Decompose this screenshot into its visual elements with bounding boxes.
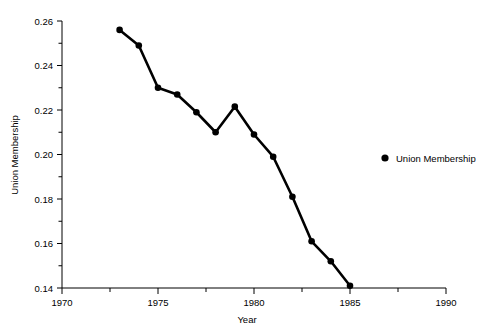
line-chart: 0.140.160.180.200.220.240.26 19701975198…	[0, 0, 494, 336]
data-point-marker	[289, 193, 296, 200]
data-point-marker	[232, 103, 239, 110]
data-point-marker	[347, 282, 354, 289]
data-point-marker	[212, 129, 219, 136]
data-point-marker	[251, 131, 258, 138]
legend-marker-icon	[381, 154, 388, 161]
data-point-marker	[270, 153, 277, 160]
y-tick-label: 0.26	[35, 16, 54, 27]
chart-background	[0, 0, 494, 336]
y-tick-label: 0.22	[35, 105, 54, 116]
data-point-marker	[174, 91, 181, 98]
x-tick-label: 1990	[435, 297, 456, 308]
data-point-marker	[193, 109, 200, 116]
y-tick-label: 0.24	[35, 60, 54, 71]
data-point-marker	[328, 258, 335, 265]
x-tick-label: 1985	[339, 297, 360, 308]
legend-label: Union Membership	[396, 153, 476, 164]
x-tick-label: 1970	[51, 297, 72, 308]
x-tick-label: 1975	[147, 297, 168, 308]
y-tick-label: 0.18	[35, 194, 54, 205]
data-point-marker	[155, 84, 162, 91]
data-point-marker	[116, 27, 123, 34]
data-point-marker	[308, 238, 315, 245]
y-tick-label: 0.20	[35, 149, 54, 160]
x-tick-label: 1980	[243, 297, 264, 308]
y-tick-label: 0.16	[35, 238, 54, 249]
data-point-marker	[136, 42, 143, 49]
chart-legend: Union Membership	[381, 153, 475, 164]
y-axis-title: Union Membership	[9, 115, 20, 195]
y-tick-label: 0.14	[35, 283, 54, 294]
chart-container: 0.140.160.180.200.220.240.26 19701975198…	[0, 0, 494, 336]
x-axis-title: Year	[237, 314, 256, 325]
